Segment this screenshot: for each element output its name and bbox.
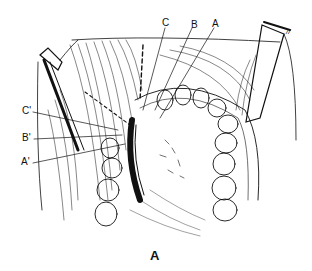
label-c-prime: C' bbox=[22, 106, 31, 116]
surgical-illustration bbox=[0, 0, 312, 271]
label-b: B bbox=[191, 20, 198, 30]
label-a-prime: A' bbox=[21, 157, 30, 167]
label-c: C bbox=[162, 18, 169, 28]
figure-caption: A bbox=[150, 248, 159, 263]
label-a: A bbox=[212, 19, 219, 29]
corner-mark: // bbox=[286, 28, 290, 36]
label-b-prime: B' bbox=[22, 133, 31, 143]
